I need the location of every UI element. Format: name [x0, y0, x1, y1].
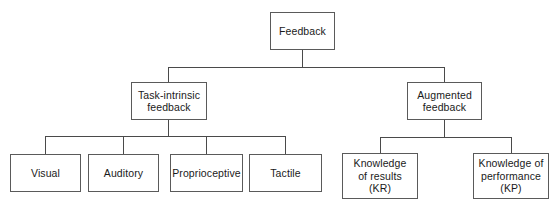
- node-knowledge-of-performance: Knowledge of performance (KP): [473, 153, 549, 199]
- connector-drop-task-intrinsic: [168, 67, 169, 82]
- node-knowledge-of-results: Knowledge of results (KR): [342, 153, 418, 199]
- feedback-hierarchy-diagram: Feedback Task-intrinsic feedback Augment…: [0, 0, 556, 205]
- node-feedback: Feedback: [270, 12, 335, 50]
- node-visual: Visual: [10, 154, 81, 192]
- connector-left-bus: [45, 136, 286, 137]
- connector-drop-tactile: [285, 136, 286, 154]
- connector-drop-visual: [45, 136, 46, 154]
- connector-drop-augmented: [444, 67, 445, 82]
- node-auditory: Auditory: [88, 154, 159, 192]
- connector-drop-auditory: [123, 136, 124, 154]
- connector-augmented-stem: [444, 120, 445, 137]
- connector-task-intrinsic-stem: [168, 120, 169, 136]
- node-proprioceptive: Proprioceptive: [170, 154, 243, 192]
- connector-drop-proprioceptive: [206, 136, 207, 154]
- connector-drop-knowledge-of-performance: [511, 137, 512, 153]
- connector-root-stem: [302, 50, 303, 67]
- node-tactile: Tactile: [249, 154, 322, 192]
- connector-top-bus: [168, 67, 445, 68]
- connector-drop-knowledge-of-results: [380, 137, 381, 153]
- node-augmented-feedback: Augmented feedback: [407, 82, 482, 120]
- connector-right-bus: [380, 137, 511, 138]
- node-task-intrinsic-feedback: Task-intrinsic feedback: [131, 82, 207, 120]
